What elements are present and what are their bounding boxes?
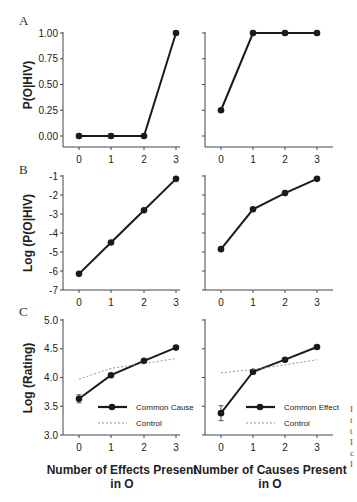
x-tick-label: 3 — [314, 442, 320, 453]
legend-label-control-right: Control — [284, 419, 310, 428]
x-tick-label: 2 — [141, 297, 147, 308]
data-point — [141, 207, 148, 214]
y-tick-label: -6 — [49, 266, 58, 277]
y-tick-label: 0.25 — [39, 105, 59, 116]
x-tick-label: 3 — [173, 442, 179, 453]
x-tick-label: 2 — [282, 442, 288, 453]
data-point — [250, 206, 257, 213]
plot-area: 0.000.250.500.751.0001230123-7-6-5-4-3-2… — [39, 28, 333, 454]
x-tick-label: 1 — [250, 154, 256, 165]
y-tick-label: -2 — [49, 190, 58, 201]
data-point — [141, 133, 148, 140]
y-tick-label: 4.5 — [44, 343, 58, 354]
legend-left: Common Cause Control — [98, 403, 194, 428]
chart-b-left: -7-6-5-4-3-2-10123 — [49, 171, 180, 309]
x-tick-label: 2 — [141, 442, 147, 453]
y-tick-label: 5.0 — [44, 315, 58, 326]
y-axis-title-a: P(O|HIV) — [21, 61, 35, 110]
data-point — [76, 271, 83, 278]
chart-a-left: 0.000.250.500.751.000123 — [39, 28, 180, 166]
series-line — [221, 33, 317, 110]
y-axis-title-b: Log (P(O|HIV) — [21, 194, 35, 272]
y-tick-label: 4.0 — [44, 372, 58, 383]
legend-label-control-left: Control — [136, 419, 162, 428]
y-tick-label: 0.50 — [39, 79, 59, 90]
data-point — [218, 107, 225, 114]
data-point — [173, 30, 180, 37]
series-line — [79, 179, 176, 274]
data-point — [218, 246, 225, 253]
edge-fragment: I — [350, 459, 353, 469]
x-tick-label: 1 — [108, 297, 114, 308]
panel-label-b: B — [19, 162, 28, 177]
series-line — [79, 348, 176, 399]
data-point — [173, 344, 180, 351]
y-tick-label: -4 — [49, 228, 58, 239]
data-point — [108, 239, 115, 246]
legend-marker-common-effect — [257, 404, 264, 411]
x-tick-label: 0 — [218, 297, 224, 308]
series-line — [221, 179, 317, 249]
data-point — [173, 176, 180, 183]
figure-canvas: A B C P(O|HIV) Log (P(O|HIV) Log (Rating… — [0, 0, 357, 502]
edge-fragment: I — [350, 404, 353, 414]
edge-fragment: t — [350, 426, 353, 436]
data-point — [282, 30, 289, 37]
x-tick-label: 0 — [218, 442, 224, 453]
x-axis-title-right-line1: Number of Causes Present — [193, 463, 346, 477]
data-point — [314, 344, 321, 351]
edge-fragment: I — [350, 437, 353, 447]
x-tick-label: 0 — [76, 297, 82, 308]
data-point — [218, 410, 225, 417]
y-tick-label: 3.5 — [44, 401, 58, 412]
x-tick-label: 2 — [282, 154, 288, 165]
x-tick-label: 3 — [314, 154, 320, 165]
panel-label-a: A — [19, 13, 29, 28]
legend-right: Common Effect Control — [246, 403, 340, 428]
data-point — [250, 30, 257, 37]
x-tick-label: 2 — [141, 154, 147, 165]
x-tick-label: 1 — [108, 442, 114, 453]
x-axis-title-right-line2: in O — [258, 477, 281, 491]
data-point — [76, 133, 83, 140]
edge-fragment: t — [350, 415, 353, 425]
y-tick-label: -7 — [49, 285, 58, 296]
x-tick-label: 3 — [173, 297, 179, 308]
edge-fragment: c — [350, 448, 354, 458]
y-tick-label: 0.75 — [39, 53, 59, 64]
x-tick-label: 2 — [282, 297, 288, 308]
y-tick-label: -5 — [49, 247, 58, 258]
chart-c-right: 0123 — [202, 319, 333, 453]
data-point — [314, 30, 321, 37]
x-tick-label: 1 — [250, 297, 256, 308]
x-tick-label: 1 — [108, 154, 114, 165]
x-axis-title-left-line2: in O — [110, 477, 133, 491]
x-tick-label: 0 — [76, 442, 82, 453]
y-tick-label: 3.0 — [44, 430, 58, 441]
x-tick-label: 3 — [173, 154, 179, 165]
chart-c-left: 3.03.54.04.55.00123 — [44, 315, 180, 454]
data-point — [282, 190, 289, 197]
data-point — [282, 356, 289, 363]
series-line — [79, 33, 176, 136]
cropped-caption-fragments: I t t I c I — [350, 404, 354, 469]
y-tick-label: 0.00 — [39, 131, 59, 142]
y-axis-title-c: Log (Rating) — [21, 343, 35, 414]
panel-label-c: C — [19, 304, 28, 319]
legend-label-common-cause: Common Cause — [136, 403, 194, 412]
chart-b-right: 0123 — [202, 175, 333, 308]
y-tick-label: -1 — [49, 171, 58, 182]
legend-label-common-effect: Common Effect — [284, 403, 340, 412]
x-tick-label: 0 — [76, 154, 82, 165]
data-point — [108, 372, 115, 379]
data-point — [108, 133, 115, 140]
x-tick-label: 0 — [218, 154, 224, 165]
data-point — [314, 176, 321, 183]
y-tick-label: 1.00 — [39, 28, 59, 39]
x-tick-label: 3 — [314, 297, 320, 308]
x-axis-title-left-line1: Number of Effects Present — [47, 463, 198, 477]
x-tick-label: 1 — [250, 442, 256, 453]
y-tick-label: -3 — [49, 209, 58, 220]
data-point — [76, 395, 83, 402]
chart-a-right: 0123 — [202, 30, 333, 165]
